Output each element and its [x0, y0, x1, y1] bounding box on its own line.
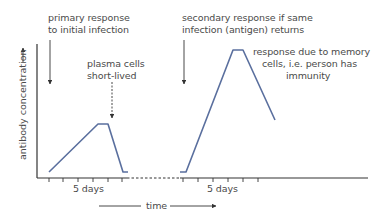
primary-response-label-2: to initial infection	[48, 24, 129, 36]
secondary-response-label-2: infection (antigen) returns	[182, 24, 304, 36]
memory-response-label-2: cells, i.e. person has	[262, 58, 357, 70]
primary-response-curve	[49, 124, 128, 172]
x-axis-label: time	[146, 200, 167, 212]
plasma-cells-label-1: plasma cells	[87, 58, 145, 70]
memory-response-label-1: response due to memory	[253, 46, 370, 58]
plasma-cells-label-2: short-lived	[87, 70, 137, 82]
secondary-response-label-1: secondary response if same	[182, 12, 313, 24]
x-tick-label-primary: 5 days	[73, 183, 104, 195]
ticks-primary	[49, 178, 122, 182]
ticks-secondary	[183, 178, 258, 182]
secondary-response-curve	[180, 50, 275, 172]
y-axis-label: antibody concentration	[17, 49, 28, 160]
x-tick-label-secondary: 5 days	[207, 183, 238, 195]
antibody-response-diagram: primary response to initial infection pl…	[0, 0, 384, 219]
primary-response-label-1: primary response	[48, 12, 130, 24]
memory-response-label-3: immunity	[286, 70, 330, 82]
